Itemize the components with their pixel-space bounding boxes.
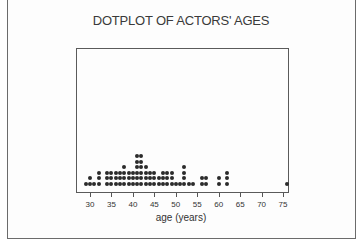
chart-title: DOTPLOT OF ACTORS' AGES (0, 13, 362, 28)
x-tick-label: 30 (80, 200, 100, 209)
data-dot (144, 165, 148, 169)
x-tick (219, 193, 220, 197)
x-axis-label: age (years) (0, 212, 362, 223)
x-tick-label: 75 (273, 200, 293, 209)
x-tick (111, 193, 112, 197)
x-tick-label: 65 (230, 200, 250, 209)
data-dot (191, 182, 195, 186)
x-tick-label: 40 (123, 200, 143, 209)
x-tick (90, 193, 91, 197)
x-tick-label: 55 (187, 200, 207, 209)
data-dot (170, 182, 174, 186)
x-tick (197, 193, 198, 197)
x-tick-label: 50 (166, 200, 186, 209)
x-tick (240, 193, 241, 197)
x-tick (133, 193, 134, 197)
data-dot (97, 182, 101, 186)
x-tick-label: 35 (101, 200, 121, 209)
data-dot (204, 182, 208, 186)
data-dot (170, 171, 174, 175)
data-dot (217, 182, 221, 186)
data-dot (97, 171, 101, 175)
x-tick-label: 70 (252, 200, 272, 209)
x-tick-label: 60 (209, 200, 229, 209)
x-tick-label: 45 (144, 200, 164, 209)
x-tick (262, 193, 263, 197)
x-tick (176, 193, 177, 197)
x-tick (154, 193, 155, 197)
data-dot (200, 182, 204, 186)
x-tick (283, 193, 284, 197)
data-dot (170, 176, 174, 180)
